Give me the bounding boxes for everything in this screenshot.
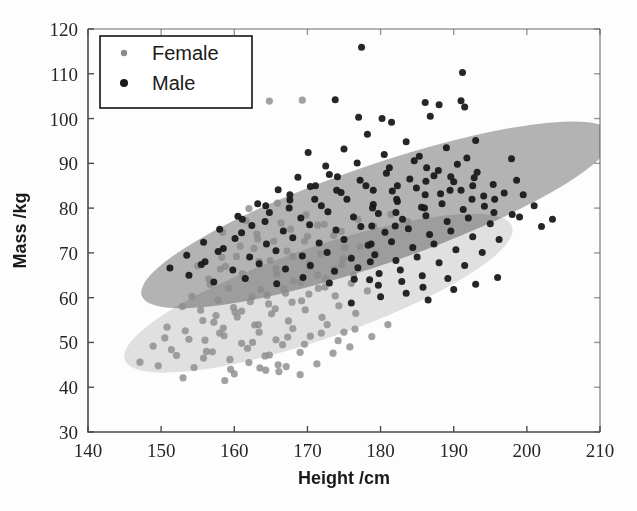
point-female xyxy=(290,277,297,284)
point-male xyxy=(375,282,382,289)
point-female xyxy=(272,265,279,272)
point-male xyxy=(392,257,399,264)
point-female xyxy=(220,332,227,339)
chart-root: 1401501601701801902002103040506070809010… xyxy=(0,0,637,511)
point-female xyxy=(188,293,195,300)
point-male xyxy=(549,216,556,223)
point-male xyxy=(326,171,333,178)
point-male xyxy=(381,151,388,158)
point-male xyxy=(414,253,421,260)
y-tick-label: 30 xyxy=(59,422,78,443)
point-male xyxy=(531,202,538,209)
point-female xyxy=(245,359,252,366)
point-male xyxy=(371,251,378,258)
point-male xyxy=(494,274,501,281)
point-female xyxy=(314,222,321,229)
point-male xyxy=(471,174,478,181)
point-male xyxy=(447,173,454,180)
point-male xyxy=(405,225,412,232)
point-female xyxy=(136,359,143,366)
point-female xyxy=(210,319,217,326)
point-female xyxy=(230,304,237,311)
point-male xyxy=(362,182,369,189)
point-female xyxy=(284,333,291,340)
point-male xyxy=(297,214,304,221)
point-female xyxy=(256,329,263,336)
point-female xyxy=(314,272,321,279)
point-female xyxy=(304,233,311,240)
point-male xyxy=(238,229,245,236)
point-male xyxy=(370,187,377,194)
point-female xyxy=(220,325,227,332)
point-male xyxy=(275,186,282,193)
point-male xyxy=(341,146,348,153)
point-female xyxy=(209,348,216,355)
point-male xyxy=(239,216,246,223)
point-male xyxy=(461,103,468,110)
y-tick-label: 110 xyxy=(50,64,78,85)
y-tick-label: 60 xyxy=(59,288,78,309)
point-male xyxy=(403,138,410,145)
point-male xyxy=(465,214,472,221)
point-male xyxy=(348,255,355,262)
point-male xyxy=(425,296,432,303)
point-female xyxy=(274,200,281,207)
point-female xyxy=(346,343,353,350)
point-female xyxy=(244,345,251,352)
point-male xyxy=(376,270,383,277)
point-male xyxy=(357,223,364,230)
point-male xyxy=(286,191,293,198)
point-male xyxy=(242,275,249,282)
point-male xyxy=(351,276,358,283)
point-male xyxy=(200,239,207,246)
point-male xyxy=(248,222,255,229)
point-male xyxy=(469,196,476,203)
point-male xyxy=(350,214,357,221)
y-axis-title: Mass /kg xyxy=(10,192,30,268)
point-female xyxy=(163,324,170,331)
point-male xyxy=(501,189,508,196)
point-female xyxy=(341,244,348,251)
point-male xyxy=(421,205,428,212)
x-tick-label: 200 xyxy=(513,440,542,461)
point-female xyxy=(149,342,156,349)
point-male xyxy=(232,235,239,242)
point-female xyxy=(283,363,290,370)
point-male xyxy=(472,281,479,288)
point-male xyxy=(332,227,339,234)
point-female xyxy=(266,97,273,104)
point-male xyxy=(454,161,461,168)
point-female xyxy=(277,219,284,226)
point-male xyxy=(358,44,365,51)
point-male xyxy=(491,196,498,203)
point-male xyxy=(469,233,476,240)
point-male xyxy=(262,202,269,209)
point-male xyxy=(447,227,454,234)
point-male xyxy=(312,182,319,189)
point-male xyxy=(322,163,329,170)
point-male xyxy=(332,96,339,103)
point-female xyxy=(302,306,309,313)
point-female xyxy=(245,205,252,212)
point-male xyxy=(411,157,418,164)
point-male xyxy=(316,240,323,247)
point-male xyxy=(210,278,217,285)
y-tick-label: 40 xyxy=(59,377,78,398)
point-female xyxy=(272,336,279,343)
point-female xyxy=(313,360,320,367)
point-female xyxy=(297,349,304,356)
point-male xyxy=(289,234,296,241)
point-male xyxy=(254,200,261,207)
point-male xyxy=(366,276,373,283)
point-female xyxy=(275,361,282,368)
point-female xyxy=(307,333,314,340)
point-female xyxy=(262,367,269,374)
point-female xyxy=(315,285,322,292)
point-female xyxy=(222,263,229,270)
point-male xyxy=(409,244,416,251)
y-tick-label: 80 xyxy=(59,198,78,219)
point-male xyxy=(341,236,348,243)
point-male xyxy=(299,253,306,260)
point-female xyxy=(270,238,277,245)
x-axis-title: Height /cm xyxy=(298,468,390,488)
